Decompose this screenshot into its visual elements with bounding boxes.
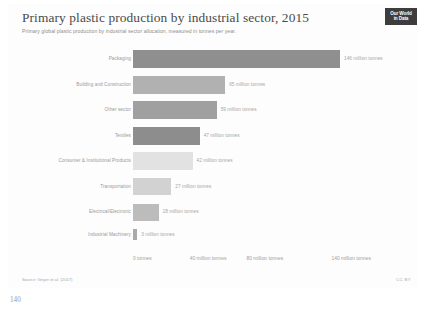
bar[interactable] — [133, 127, 200, 145]
bar-category-label: Transportation — [100, 184, 131, 189]
x-axis-tick-label: 140 million tonnes — [331, 256, 370, 261]
logo-line-1: Our World — [390, 11, 411, 16]
chart-header: Primary plastic production by industrial… — [22, 10, 322, 34]
bar-category-label: Industrial Machinery — [88, 232, 131, 237]
chart-subtitle: Primary global plastic production by ind… — [22, 28, 322, 34]
x-axis: 0 tonnes40 million tonnes80 million tonn… — [0, 256, 425, 268]
bar-value-label: 47 million tonnes — [204, 133, 240, 138]
bar-row: Industrial Machinery3 million tonnes — [0, 229, 425, 240]
bar-row: Packaging146 million tonnes — [0, 50, 425, 68]
bar-value-label: 3 million tonnes — [141, 232, 174, 237]
bar-row: Other sector59 million tonnes — [0, 101, 425, 119]
bar[interactable] — [133, 76, 225, 94]
bar-value-label: 27 million tonnes — [175, 184, 211, 189]
bar-category-label: Textiles — [115, 133, 131, 138]
bar[interactable] — [133, 152, 193, 170]
bar-category-label: Consumer & Institutional Products — [58, 158, 131, 163]
source-note: Source: Geyer et al. (2017) — [22, 277, 73, 282]
bar-row: Electrical/Electronic18 million tonnes — [0, 204, 425, 221]
x-axis-tick-label: 0 tonnes — [133, 256, 152, 261]
logo-line-2: in Data — [385, 16, 417, 22]
license-label: CC BY — [396, 277, 411, 282]
bar-value-label: 146 million tonnes — [344, 56, 383, 61]
bar-category-label: Electrical/Electronic — [89, 209, 131, 214]
x-axis-tick-label: 80 million tonnes — [246, 256, 283, 261]
bar[interactable] — [133, 204, 159, 221]
bar-value-label: 42 million tonnes — [197, 158, 233, 163]
bar-row: Consumer & Institutional Products42 mill… — [0, 152, 425, 170]
bar-value-label: 18 million tonnes — [163, 209, 199, 214]
bar-category-label: Packaging — [109, 56, 131, 61]
bar[interactable] — [133, 101, 217, 119]
bar-chart-plot-area: Packaging146 million tonnesBuilding and … — [0, 48, 425, 253]
bar-row: Textiles47 million tonnes — [0, 127, 425, 145]
bar[interactable] — [133, 229, 137, 240]
bar-category-label: Other sector — [105, 107, 131, 112]
bar-category-label: Building and Construction — [76, 82, 131, 87]
bar-value-label: 65 million tonnes — [229, 82, 265, 87]
bar-row: Building and Construction65 million tonn… — [0, 76, 425, 94]
bar[interactable] — [133, 178, 171, 195]
bar-row: Transportation27 million tonnes — [0, 178, 425, 195]
slide-canvas: Primary plastic production by industrial… — [0, 0, 425, 321]
x-axis-tick-label: 40 million tonnes — [190, 256, 227, 261]
bar[interactable] — [133, 50, 340, 68]
our-world-in-data-logo[interactable]: Our World in Data — [385, 8, 417, 25]
bar-value-label: 59 million tonnes — [221, 107, 257, 112]
page-number: 140 — [10, 296, 21, 304]
page-title: Primary plastic production by industrial… — [22, 10, 322, 25]
